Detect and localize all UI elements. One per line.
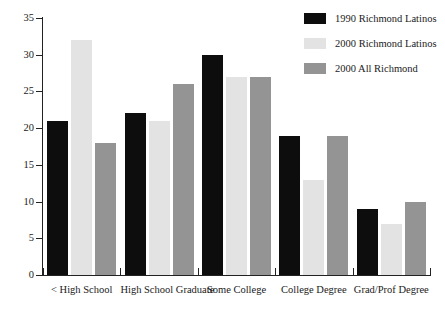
x-axis-category-label: Some College [198, 284, 275, 296]
bar [357, 209, 378, 275]
bar [125, 113, 146, 275]
bar [250, 77, 271, 275]
y-axis-tick-label-text: 5 [4, 233, 34, 243]
y-axis-tick-label-text: 10 [4, 197, 34, 207]
legend: 1990 Richmond Latinos2000 Richmond Latin… [304, 12, 444, 87]
bar [71, 40, 92, 275]
bar [327, 136, 348, 276]
y-axis-tick-label-text: 0 [4, 270, 34, 280]
y-axis-tick [36, 55, 43, 56]
y-axis-tick [36, 18, 43, 19]
bar [47, 121, 68, 275]
bar-chart: 05101520253035 < High SchoolHigh School … [0, 0, 445, 309]
bar [405, 202, 426, 275]
y-axis-tick-label: 35 [0, 13, 34, 23]
y-axis-tick-label-text: 30 [4, 50, 34, 60]
y-axis-tick [36, 128, 43, 129]
y-axis-tick [36, 91, 43, 92]
legend-item: 1990 Richmond Latinos [304, 12, 444, 24]
x-axis-category-label: Grad/Prof Degree [353, 284, 430, 296]
y-axis-tick [36, 165, 43, 166]
x-axis-category-label: < High School [43, 284, 120, 296]
legend-swatch [304, 63, 326, 74]
legend-item: 2000 All Richmond [304, 62, 444, 74]
bar [381, 224, 402, 275]
x-axis-end-tick [430, 268, 431, 276]
y-axis-tick-label: 5 [0, 233, 34, 243]
bar [279, 136, 300, 276]
y-axis-tick-label: 25 [0, 86, 34, 96]
y-axis-tick-label: 15 [0, 160, 34, 170]
legend-swatch [304, 38, 326, 49]
y-axis-tick-label: 10 [0, 197, 34, 207]
y-axis-tick [36, 202, 43, 203]
x-axis-category-label: High School Graduate [120, 284, 197, 296]
bar [226, 77, 247, 275]
legend-item: 2000 Richmond Latinos [304, 37, 444, 49]
legend-label: 1990 Richmond Latinos [335, 13, 437, 24]
bar [202, 55, 223, 275]
y-axis-tick-label-text: 15 [4, 160, 34, 170]
bar [149, 121, 170, 275]
y-axis-tick-label-text: 20 [4, 123, 34, 133]
legend-swatch [304, 13, 326, 24]
y-axis-tick-label-text: 25 [4, 86, 34, 96]
y-axis-tick-label: 0 [0, 270, 34, 280]
y-axis-tick-label: 30 [0, 50, 34, 60]
x-axis-line [42, 275, 431, 276]
x-axis-category-label: College Degree [275, 284, 352, 296]
bar [95, 143, 116, 275]
y-axis-tick-label: 20 [0, 123, 34, 133]
legend-label: 2000 Richmond Latinos [335, 38, 437, 49]
legend-label: 2000 All Richmond [335, 63, 418, 74]
y-axis-tick [36, 238, 43, 239]
bar [173, 84, 194, 275]
y-axis-tick-label-text: 35 [4, 13, 34, 23]
bar [303, 180, 324, 275]
